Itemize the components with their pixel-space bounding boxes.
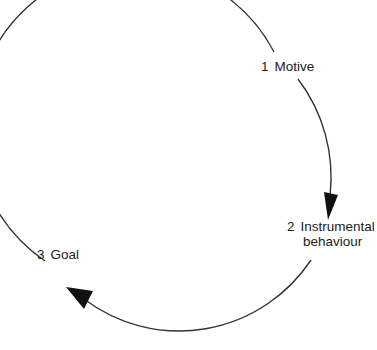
arrowhead-left-icon (66, 287, 93, 309)
node-motive: 1Motive (261, 59, 314, 74)
node-instrumental-behaviour: 2Instrumental behaviour (287, 219, 375, 249)
node-label-line2: behaviour (287, 234, 375, 249)
arrowhead-down-icon (324, 192, 338, 220)
node-label: Goal (51, 247, 80, 262)
node-number: 2 (287, 219, 295, 234)
node-label: Motive (275, 59, 315, 74)
node-label-line1: Instrumental (301, 219, 375, 234)
node-goal: 3Goal (37, 247, 79, 262)
arc-motive-to-behaviour (298, 79, 331, 196)
arc-behaviour-to-goal (84, 260, 311, 331)
node-number: 1 (261, 59, 269, 74)
arc-goal-to-motive (0, 0, 274, 261)
cycle-diagram (0, 0, 377, 350)
node-number: 3 (37, 247, 45, 262)
